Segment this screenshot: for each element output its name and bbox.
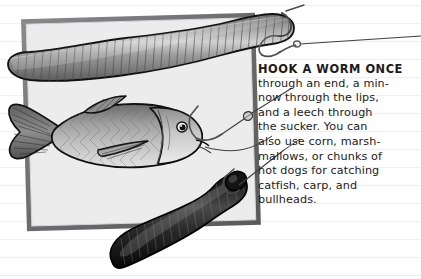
worm-fishing-line [300,36,421,44]
caption-line: hot dogs for catching [258,164,420,179]
caption-line: mallows, or chunks of [258,150,420,165]
caption-line: and a leech through [258,106,420,121]
caption-line: the sucker. You can [258,120,420,135]
worm-hook-eye [294,41,301,47]
caption-line: catfish, carp, and [258,179,420,194]
caption-line: bullheads. [258,193,420,208]
worm-hook-barb [286,5,304,11]
caption-line: also use corn, marsh- [258,135,420,150]
caption-line: through an end, a min- [258,77,420,92]
caption-heading: HOOK A WORM ONCE [258,62,420,77]
illustration-canvas: HOOK A WORM ONCE through an end, a min- … [0,0,421,279]
caption-line: now through the lips, [258,91,420,106]
caption-block: HOOK A WORM ONCE through an end, a min- … [258,62,420,208]
